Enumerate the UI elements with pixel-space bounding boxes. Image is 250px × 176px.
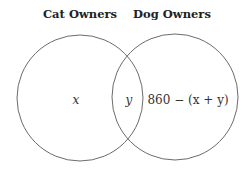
dog-only-region-label: 860 − (x + y)	[147, 93, 228, 107]
venn-diagram: x y 860 − (x + y)	[0, 0, 250, 176]
intersection-region-label: y	[125, 93, 133, 107]
cat-owners-circle	[17, 35, 143, 161]
cat-only-region-label: x	[73, 93, 80, 107]
